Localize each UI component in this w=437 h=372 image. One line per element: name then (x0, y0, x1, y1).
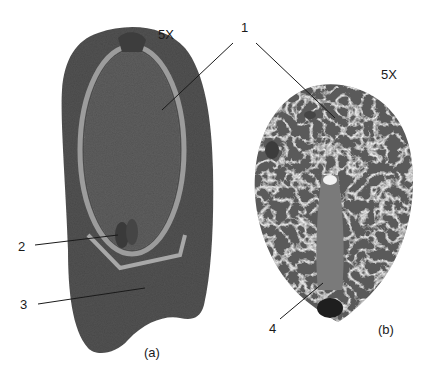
panel-a-specimen (62, 27, 214, 353)
panel-b-caption: (b) (378, 323, 394, 336)
panel-a-caption: (a) (144, 346, 160, 359)
callout-3: 3 (20, 298, 27, 311)
magnification-label-b: 5X (381, 68, 397, 81)
panel-b-specimen (255, 84, 413, 322)
callout-2: 2 (18, 240, 25, 253)
figure: 5X 5X 1 2 3 4 (a) (b) (0, 0, 437, 372)
callout-1: 1 (241, 21, 248, 34)
callout-4: 4 (269, 322, 276, 335)
magnification-label-a: 5X (158, 28, 174, 41)
specimen-illustration (0, 0, 437, 372)
